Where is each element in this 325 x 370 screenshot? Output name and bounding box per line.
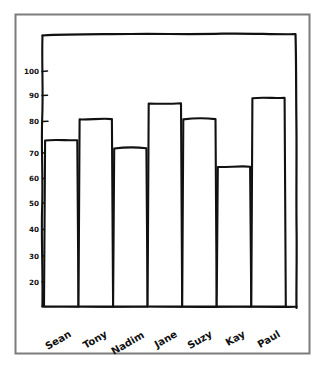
bar-tony[interactable] bbox=[79, 119, 114, 307]
y-tick-label-60: 60 bbox=[29, 174, 39, 183]
y-tick-label-80: 80 bbox=[29, 117, 39, 126]
x-tick-label-suzy: Suzy bbox=[185, 328, 214, 351]
y-tick-100 bbox=[42, 71, 48, 72]
x-axis-tick-labels: Sean Tony Nadim Jane Suzy Kay Paul bbox=[43, 328, 282, 357]
x-tick-label-sean: Sean bbox=[43, 328, 73, 351]
bar-nadim[interactable] bbox=[113, 147, 148, 306]
chart-container: 100 90 80 70 60 50 40 30 20 bbox=[0, 0, 325, 370]
y-tick-label-90: 90 bbox=[29, 91, 39, 100]
x-tick-label-tony: Tony bbox=[81, 328, 109, 351]
bar-series bbox=[44, 98, 286, 307]
x-tick-label-paul: Paul bbox=[255, 328, 282, 350]
x-tick-label-kay: Kay bbox=[224, 328, 248, 348]
bar-chart-figure: 100 90 80 70 60 50 40 30 20 bbox=[0, 0, 325, 370]
x-tick-label-jane: Jane bbox=[152, 328, 180, 350]
y-tick-label-100: 100 bbox=[24, 67, 39, 76]
y-tick-label-30: 30 bbox=[29, 252, 39, 261]
bar-sean[interactable] bbox=[44, 140, 79, 307]
bar-suzy[interactable] bbox=[182, 118, 217, 306]
y-axis-line bbox=[42, 36, 43, 307]
bar-kay[interactable] bbox=[217, 166, 252, 306]
bar-jane[interactable] bbox=[148, 103, 183, 306]
y-tick-label-40: 40 bbox=[29, 225, 39, 234]
y-tick-label-20: 20 bbox=[29, 278, 39, 287]
y-tick-label-50: 50 bbox=[29, 199, 39, 208]
bar-paul[interactable] bbox=[251, 98, 285, 307]
y-tick-label-70: 70 bbox=[29, 149, 39, 158]
